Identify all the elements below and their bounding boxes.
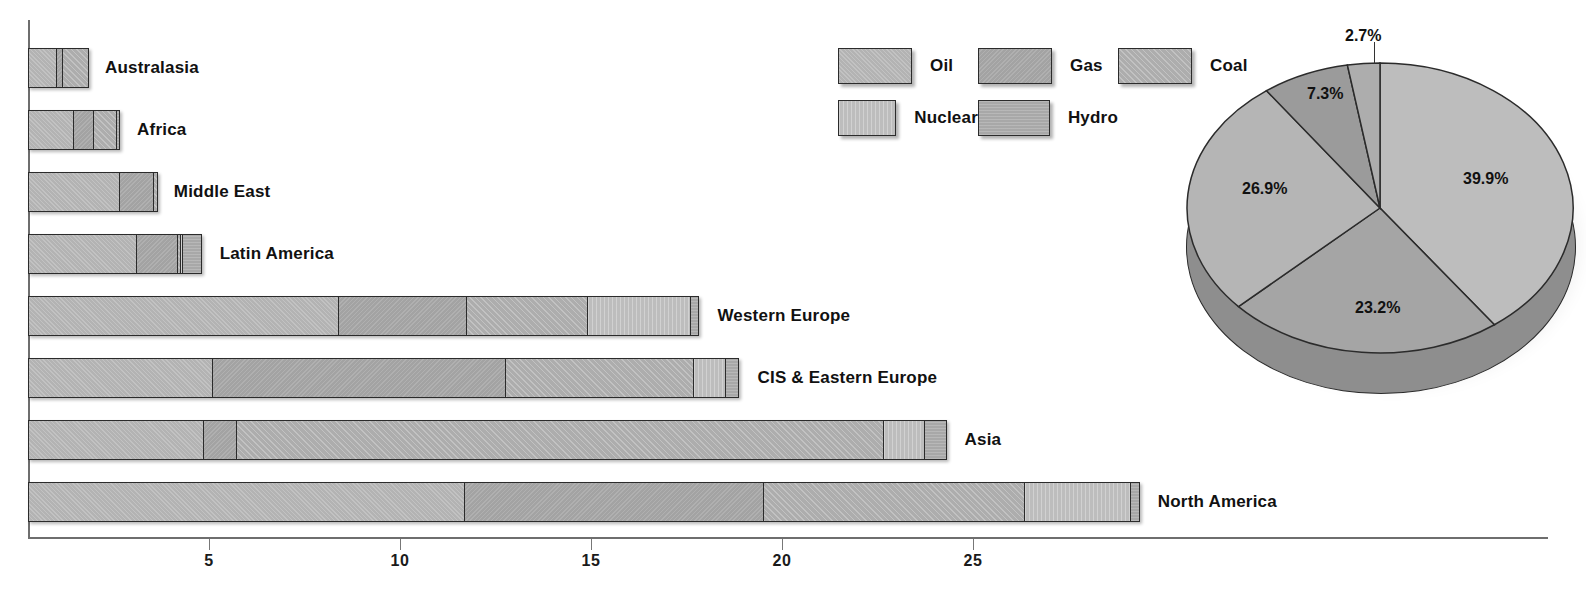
- bar-segment-gas[interactable]: [119, 172, 154, 212]
- legend-swatch-gas: [978, 48, 1052, 84]
- bar-segment-oil[interactable]: [28, 358, 213, 398]
- bar-segment-nuclear[interactable]: [587, 296, 691, 336]
- bar-category-label: Australasia: [105, 58, 199, 78]
- bar-segment-hydro[interactable]: [690, 296, 699, 336]
- bar-category-label: Africa: [137, 120, 186, 140]
- pie-chart: 39.9%23.2%26.9%7.3%2.7%: [1140, 0, 1574, 593]
- x-tick-label-25: 25: [964, 552, 983, 570]
- bar-segment-nuclear[interactable]: [1024, 482, 1131, 522]
- x-tick-label-10: 10: [391, 552, 410, 570]
- bar-category-label: Middle East: [174, 182, 271, 202]
- bar-segment-hydro[interactable]: [924, 420, 946, 460]
- bar-segment-gas[interactable]: [338, 296, 467, 336]
- bar-segment-oil[interactable]: [28, 482, 465, 522]
- pie-label-gas: 23.2%: [1355, 299, 1400, 317]
- bar-segment-oil[interactable]: [28, 110, 74, 150]
- bar-row: Middle East: [28, 172, 1328, 212]
- bar-segment-oil[interactable]: [28, 296, 339, 336]
- bar-category-label: Western Europe: [717, 306, 850, 326]
- bar-segment-oil[interactable]: [28, 234, 137, 274]
- bar-segment-gas[interactable]: [203, 420, 237, 460]
- bar-row: CIS & Eastern Europe: [28, 358, 1328, 398]
- x-tick-label-5: 5: [204, 552, 213, 570]
- legend-swatch-hydro: [978, 100, 1050, 136]
- bar-segment-gas[interactable]: [464, 482, 764, 522]
- x-tick-label-20: 20: [773, 552, 792, 570]
- bar-segment-coal[interactable]: [93, 110, 117, 150]
- stacked-bar-asia[interactable]: [28, 420, 947, 460]
- bar-segment-hydro[interactable]: [182, 234, 202, 274]
- bar-segment-coal[interactable]: [62, 48, 90, 88]
- legend-swatch-nuclear: [838, 100, 896, 136]
- bar-segment-gas[interactable]: [73, 110, 94, 150]
- bar-segment-coal[interactable]: [466, 296, 588, 336]
- legend-item-oil[interactable]: Oil: [838, 48, 978, 84]
- pie-label-coal: 26.9%: [1242, 180, 1287, 198]
- stacked-bar-latin-america[interactable]: [28, 234, 202, 274]
- bar-segment-hydro[interactable]: [1130, 482, 1140, 522]
- legend-label-nuclear: Nuclear: [914, 108, 978, 128]
- x-tick-mark: [400, 539, 401, 550]
- bar-segment-coal[interactable]: [153, 172, 158, 212]
- stacked-bar-middle-east[interactable]: [28, 172, 158, 212]
- stacked-bar-cis-eastern-europe[interactable]: [28, 358, 739, 398]
- bar-row: Western Europe: [28, 296, 1328, 336]
- bar-segment-hydro[interactable]: [116, 110, 121, 150]
- bar-segment-oil[interactable]: [28, 48, 57, 88]
- legend-item-nuclear[interactable]: Nuclear: [838, 100, 978, 136]
- bar-segment-gas[interactable]: [212, 358, 506, 398]
- stacked-bar-western-europe[interactable]: [28, 296, 699, 336]
- x-tick-label-15: 15: [582, 552, 601, 570]
- bar-segment-nuclear[interactable]: [883, 420, 926, 460]
- bar-category-label: Latin America: [220, 244, 334, 264]
- x-tick-mark: [782, 539, 783, 550]
- bar-segment-oil[interactable]: [28, 172, 120, 212]
- bar-row: North America: [28, 482, 1328, 522]
- legend-label-gas: Gas: [1070, 56, 1103, 76]
- bar-segment-gas[interactable]: [136, 234, 178, 274]
- x-tick-mark: [973, 539, 974, 550]
- pie-graphic: 39.9%23.2%26.9%7.3%2.7%: [1180, 42, 1580, 372]
- pie-leader-line: [1374, 42, 1375, 64]
- x-tick-mark: [209, 539, 210, 550]
- legend-swatch-oil: [838, 48, 912, 84]
- bar-segment-coal[interactable]: [505, 358, 694, 398]
- stacked-bar-north-america[interactable]: [28, 482, 1140, 522]
- legend-item-gas[interactable]: Gas: [978, 48, 1118, 84]
- bar-row: Latin America: [28, 234, 1328, 274]
- bar-segment-coal[interactable]: [763, 482, 1025, 522]
- pie-label-nuclear: 7.3%: [1307, 85, 1343, 103]
- bar-segment-coal[interactable]: [236, 420, 883, 460]
- bar-row: Asia: [28, 420, 1328, 460]
- bar-category-label: CIS & Eastern Europe: [757, 368, 937, 388]
- bar-segment-nuclear[interactable]: [693, 358, 725, 398]
- bar-category-label: Asia: [965, 430, 1002, 450]
- legend-item-hydro[interactable]: Hydro: [978, 100, 1118, 136]
- pie-label-oil: 39.9%: [1463, 170, 1508, 188]
- bar-segment-oil[interactable]: [28, 420, 204, 460]
- stacked-bar-australasia[interactable]: [28, 48, 89, 88]
- pie-label-hydro: 2.7%: [1345, 27, 1381, 45]
- legend-label-oil: Oil: [930, 56, 953, 76]
- x-tick-mark: [591, 539, 592, 550]
- legend-label-hydro: Hydro: [1068, 108, 1118, 128]
- stacked-bar-africa[interactable]: [28, 110, 120, 150]
- bar-segment-hydro[interactable]: [725, 358, 740, 398]
